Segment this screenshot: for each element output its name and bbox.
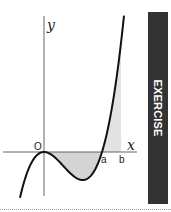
origin-label: O (34, 141, 42, 152)
exercise-sidebar: EXERCISE (148, 12, 168, 204)
point-b-label: b (119, 154, 125, 165)
dotted-divider (0, 209, 171, 210)
exercise-label: EXERCISE (152, 79, 164, 136)
y-axis-label: y (46, 17, 56, 33)
x-axis-label: x (127, 137, 135, 153)
point-a-label: a (101, 154, 107, 165)
cubic-graph: y x O a b (0, 0, 145, 205)
